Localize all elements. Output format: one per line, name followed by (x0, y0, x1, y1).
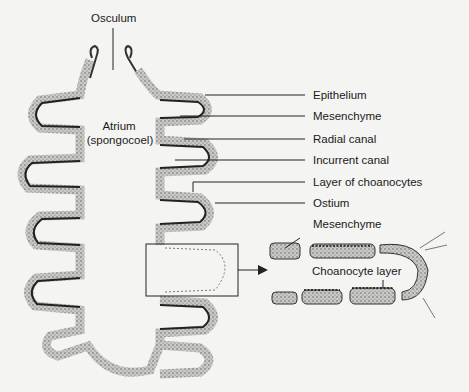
label-leaders (175, 95, 305, 203)
inset-box (146, 244, 238, 296)
label-mesenchyme: Mesenchyme (313, 110, 381, 123)
sponge-diagram (0, 0, 469, 392)
label-inset-choanocyte-layer: Choanocyte layer (312, 265, 402, 278)
inset-arrow-head (258, 265, 268, 275)
label-incurrent-canal: Incurrent canal (313, 154, 389, 167)
label-radial-canal: Radial canal (313, 133, 376, 146)
left-body-wall (22, 60, 160, 372)
label-atrium-sub: (spongocoel) (84, 134, 156, 147)
label-inset-mesenchyme: Mesenchyme (313, 218, 381, 231)
label-atrium: Atrium (84, 120, 154, 133)
label-epithelium: Epithelium (313, 89, 367, 102)
highlighted-canal (165, 248, 225, 292)
label-osculum: Osculum (91, 12, 136, 25)
label-ostium: Ostium (313, 197, 349, 210)
label-layer-of-choanocytes: Layer of choanocytes (313, 176, 422, 189)
right-choanocyte-line (160, 100, 209, 329)
